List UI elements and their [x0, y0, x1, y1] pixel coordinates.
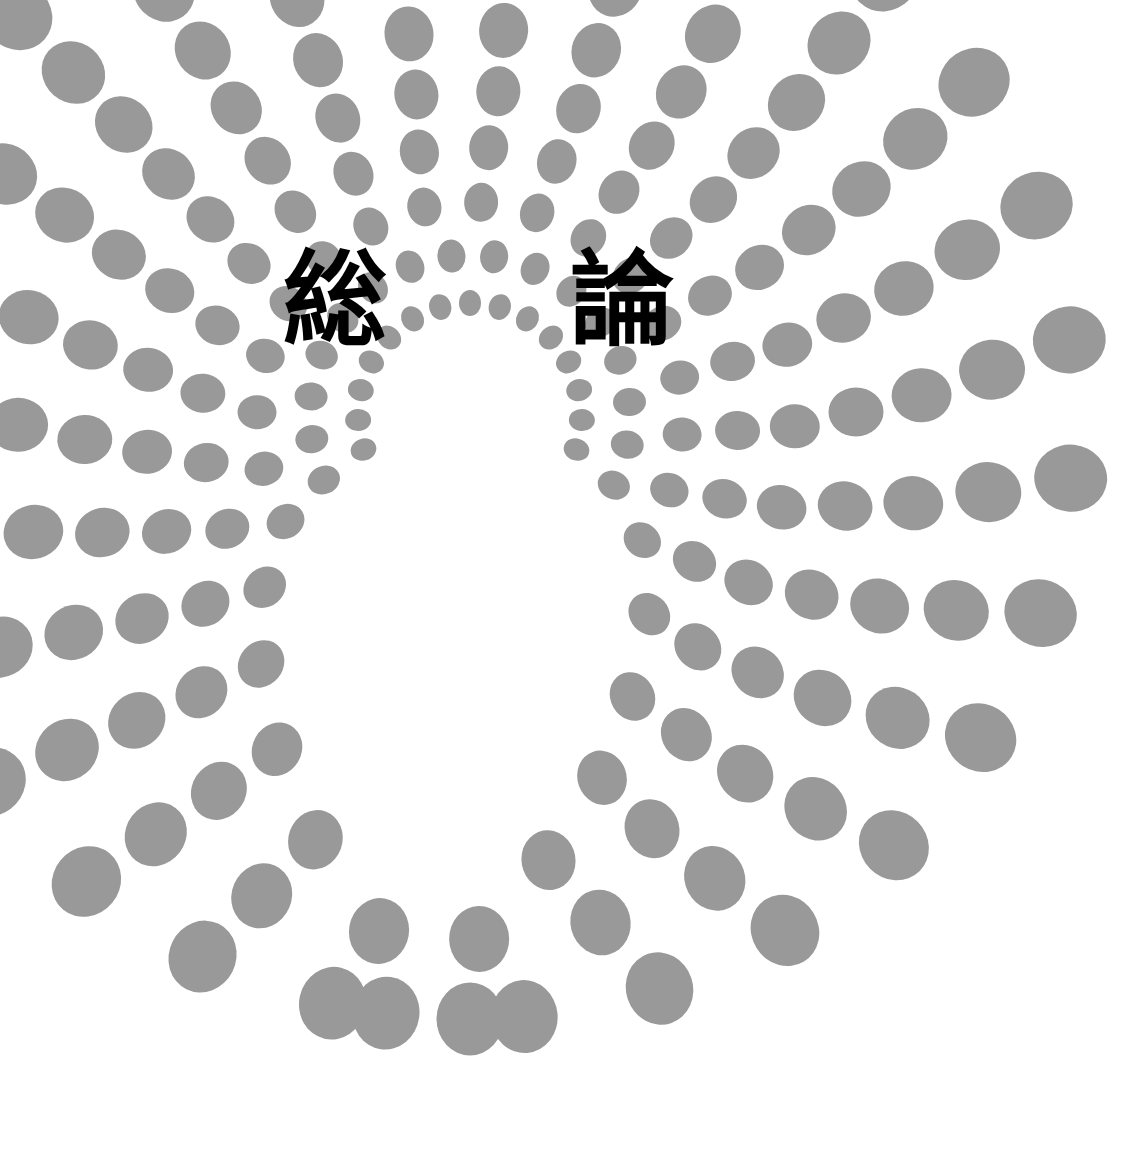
- pattern-dot: [601, 664, 664, 729]
- pattern-dot: [590, 163, 647, 222]
- pattern-dot: [646, 56, 717, 129]
- pattern-dot: [721, 636, 795, 709]
- pattern-dot: [932, 690, 1030, 786]
- pattern-dot: [871, 96, 959, 182]
- pattern-dot: [717, 116, 791, 189]
- pattern-dot: [436, 238, 468, 274]
- pattern-dot: [957, 337, 1028, 402]
- pattern-dot: [844, 796, 943, 895]
- pattern-dot: [345, 408, 372, 431]
- pattern-dot: [511, 302, 543, 336]
- pattern-dot: [132, 138, 206, 211]
- pattern-dot: [879, 471, 948, 536]
- pattern-dot: [22, 706, 111, 794]
- pattern-dot: [237, 395, 276, 430]
- pattern-dot: [758, 318, 816, 372]
- pattern-dot: [293, 381, 329, 413]
- pattern-dot: [344, 893, 415, 968]
- pattern-dot: [661, 416, 703, 453]
- pattern-dot: [84, 221, 154, 288]
- pattern-dot: [890, 367, 952, 424]
- pattern-dot: [261, 0, 334, 35]
- pattern-dot: [665, 533, 724, 590]
- pattern-dot: [769, 403, 821, 449]
- pattern-dot: [681, 268, 739, 323]
- pattern-dot: [674, 0, 752, 74]
- pattern-dot: [468, 124, 510, 172]
- pattern-dot: [179, 372, 227, 415]
- pattern-dot: [705, 733, 784, 813]
- pattern-dot: [221, 854, 302, 938]
- pattern-dot: [925, 34, 1023, 130]
- pattern-dot: [177, 187, 243, 252]
- pattern-dot: [449, 905, 510, 972]
- pattern-dot: [564, 376, 594, 403]
- pattern-dot: [404, 184, 446, 229]
- pattern-dot: [380, 3, 437, 65]
- pattern-dot: [165, 655, 238, 729]
- pattern-dot: [1029, 302, 1110, 378]
- section-divider-page: 総 論 総論: [0, 0, 1144, 1150]
- pattern-dot: [96, 680, 177, 760]
- pattern-dot: [285, 25, 352, 95]
- pattern-dot: [180, 751, 258, 831]
- pattern-dot: [593, 465, 635, 505]
- pattern-dot: [293, 423, 330, 456]
- pattern-dot: [615, 790, 689, 867]
- pattern-dot: [516, 248, 555, 290]
- pattern-dot: [782, 658, 863, 738]
- pattern-dot: [463, 182, 499, 223]
- pattern-dot: [697, 473, 752, 524]
- pattern-dot: [477, 1, 531, 60]
- pattern-dot: [813, 476, 878, 537]
- pattern-dot: [561, 435, 593, 464]
- pattern-dot: [112, 790, 200, 879]
- pattern-dot: [396, 302, 428, 336]
- pattern-dot: [737, 882, 832, 979]
- pattern-dot: [564, 16, 628, 84]
- pattern-dot: [951, 458, 1025, 527]
- pattern-dot: [707, 338, 759, 385]
- pattern-dot: [488, 977, 561, 1056]
- pattern-dot: [348, 435, 380, 464]
- dot-group: [0, 0, 1110, 1056]
- pattern-dot: [235, 558, 295, 617]
- pattern-dot: [242, 334, 289, 377]
- pattern-dot: [645, 467, 693, 513]
- pattern-dot: [776, 560, 847, 629]
- pattern-dot: [716, 551, 782, 614]
- pattern-dot: [657, 357, 701, 397]
- pattern-dot: [995, 569, 1086, 656]
- pattern-dot: [474, 64, 522, 118]
- pattern-dot: [568, 408, 595, 431]
- pattern-dot: [478, 238, 511, 275]
- pattern-dot: [773, 195, 845, 264]
- pattern-dot: [219, 235, 278, 293]
- pattern-dot: [106, 583, 179, 654]
- pattern-dot: [486, 292, 514, 323]
- pattern-dot: [811, 287, 877, 348]
- pattern-dot: [69, 501, 136, 564]
- title-character-ron: 論: [570, 248, 674, 352]
- pattern-dot: [163, 10, 242, 90]
- pattern-dot: [135, 502, 197, 561]
- pattern-dot: [549, 78, 607, 140]
- pattern-dot: [235, 127, 301, 194]
- decorative-dot-pattern: [0, 0, 1144, 1150]
- pattern-dot: [396, 126, 443, 178]
- pattern-dot: [0, 397, 49, 452]
- pattern-dot: [156, 909, 248, 1004]
- pattern-dot: [727, 236, 792, 298]
- pattern-dot: [563, 883, 638, 962]
- pattern-dot: [59, 316, 122, 374]
- pattern-dot: [266, 182, 325, 242]
- pattern-dot: [651, 698, 722, 771]
- pattern-dot: [853, 674, 942, 761]
- pattern-dot: [34, 594, 113, 670]
- pattern-dot: [303, 461, 345, 500]
- pattern-dot: [673, 835, 757, 921]
- pattern-dot: [570, 743, 635, 811]
- pattern-dot: [199, 502, 256, 556]
- pattern-dot: [620, 113, 684, 179]
- pattern-dot: [138, 261, 201, 321]
